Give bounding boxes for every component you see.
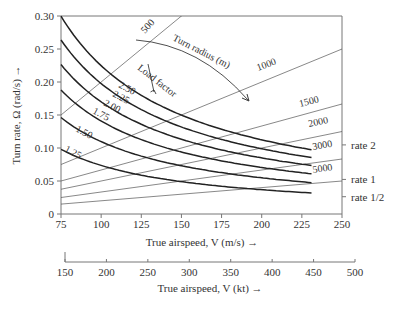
turn-radius-line-2000 bbox=[61, 132, 342, 190]
y-tick-label: 0.10 bbox=[35, 142, 55, 154]
turn-radius-label-2000: 2000 bbox=[307, 114, 329, 129]
x-tick-label: 250 bbox=[334, 218, 351, 230]
secondary-x-tick-label: 150 bbox=[57, 266, 74, 278]
rate-label: rate 1 bbox=[351, 173, 376, 185]
turn-radius-label-5000: 5000 bbox=[312, 161, 333, 175]
x-tick-label: 225 bbox=[294, 218, 311, 230]
x-axis-label: True airspeed, V (m/s) → bbox=[146, 236, 259, 249]
x-tick-label: 175 bbox=[213, 218, 230, 230]
turn-radius-label-3000: 3000 bbox=[311, 138, 333, 152]
turn-radius-title: Turn radius (m) bbox=[171, 32, 233, 71]
y-tick-label: 0.25 bbox=[35, 43, 55, 55]
turn-radius-label-1000: 1000 bbox=[255, 56, 278, 73]
rate-reference-ticks: rate 2rate 1rate 1/2 bbox=[342, 139, 384, 203]
secondary-x-tick-label: 300 bbox=[181, 266, 198, 278]
turn-radius-label-1500: 1500 bbox=[298, 93, 320, 109]
annotations: Load factorTurn radius (m) bbox=[136, 32, 249, 101]
x-tick-label: 100 bbox=[93, 218, 110, 230]
rate-label: rate 2 bbox=[351, 139, 376, 151]
x-tick-label: 125 bbox=[133, 218, 150, 230]
y-tick-label: 0 bbox=[49, 208, 55, 220]
x-tick-label: 75 bbox=[56, 218, 68, 230]
y-axis-label: Turn rate, Ω (rad/s) → bbox=[10, 65, 23, 164]
load-factor-label-1.50: 1.50 bbox=[74, 123, 95, 141]
y-tick-label: 0.05 bbox=[35, 175, 55, 187]
secondary-x-tick-label: 250 bbox=[140, 266, 157, 278]
x-tick-label: 200 bbox=[253, 218, 270, 230]
load-factor-curve-1.75 bbox=[61, 90, 312, 174]
secondary-x-tick-label: 200 bbox=[98, 266, 115, 278]
x-axis: 75100125150175200225250True airspeed, V … bbox=[56, 214, 351, 249]
load-factor-arrow-head bbox=[151, 90, 157, 94]
y-tick-label: 0.20 bbox=[35, 76, 55, 88]
secondary-x-axis-label: True airspeed, V (kt) → bbox=[157, 282, 262, 295]
secondary-x-tick-label: 350 bbox=[222, 266, 239, 278]
turn-radius-label-500: 500 bbox=[138, 17, 156, 36]
secondary-x-tick-label: 500 bbox=[347, 266, 364, 278]
y-tick-label: 0.30 bbox=[35, 10, 55, 22]
y-axis: 00.050.100.150.200.250.30Turn rate, Ω (r… bbox=[10, 10, 61, 220]
secondary-x-tick-label: 450 bbox=[305, 266, 322, 278]
rate-label: rate 1/2 bbox=[351, 191, 384, 203]
load-factor-title: Load factor bbox=[136, 62, 180, 100]
secondary-x-axis: 150200250300350400450500True airspeed, V… bbox=[57, 252, 364, 295]
y-tick-label: 0.15 bbox=[35, 109, 55, 121]
curve-labels: 1.251.501.752.002.252.505001000150020003… bbox=[63, 17, 333, 175]
turn-rate-chart: 1.251.501.752.002.252.505001000150020003… bbox=[0, 0, 403, 312]
secondary-x-tick-label: 400 bbox=[264, 266, 281, 278]
load-factor-curve-1.50 bbox=[61, 118, 312, 183]
x-tick-label: 150 bbox=[173, 218, 190, 230]
